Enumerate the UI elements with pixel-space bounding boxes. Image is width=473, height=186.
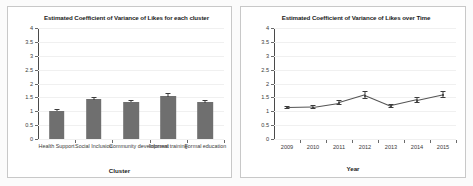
error-bar-cap	[363, 91, 368, 92]
bar-chart-title: Estimated Coefficient of Variance of Lik…	[8, 14, 231, 21]
figure-container: Estimated Coefficient of Variance of Lik…	[0, 0, 473, 186]
x-tick-mark	[300, 140, 301, 143]
gridline	[38, 139, 224, 140]
y-tick-label: 0.5	[25, 122, 33, 128]
error-bar-cap	[415, 102, 420, 103]
x-tick-mark	[378, 140, 379, 143]
line-chart-panel: Estimated Coefficient of Variance of Lik…	[240, 6, 466, 178]
x-tick-mark	[456, 140, 457, 143]
bar	[160, 96, 176, 139]
gridline	[38, 97, 224, 98]
y-tick-mark	[271, 70, 274, 71]
bar-chart-plot-area: 43.532.521.510.50Health SupportSocial In…	[38, 28, 224, 140]
y-tick-label: 3.5	[261, 39, 269, 45]
gridline	[274, 139, 456, 140]
bar	[123, 102, 139, 139]
y-tick-mark	[35, 56, 38, 57]
y-tick-label: 3	[30, 53, 33, 59]
gridline	[274, 28, 456, 29]
x-tick-label: 2013	[378, 144, 404, 151]
y-tick-mark	[35, 28, 38, 29]
error-bar-cap	[129, 100, 134, 101]
y-tick-mark	[271, 125, 274, 126]
y-tick-label: 2.5	[25, 67, 33, 73]
gridline	[38, 42, 224, 43]
error-bar-cap	[337, 100, 342, 101]
y-tick-label: 2.5	[261, 67, 269, 73]
y-tick-mark	[35, 125, 38, 126]
y-tick-mark	[35, 84, 38, 85]
line-segment	[391, 100, 417, 107]
error-bar-cap	[441, 97, 446, 98]
bar	[49, 111, 65, 139]
y-tick-mark	[35, 70, 38, 71]
bar	[198, 102, 214, 139]
y-tick-mark	[271, 42, 274, 43]
y-tick-label: 1.5	[261, 94, 269, 100]
y-tick-label: 1	[266, 108, 269, 114]
error-bar-cap	[203, 100, 208, 101]
y-tick-label: 3.5	[25, 39, 33, 45]
data-point	[442, 94, 444, 96]
y-tick-label: 4	[266, 25, 269, 31]
data-point	[312, 107, 314, 109]
error-bar-cap	[54, 109, 59, 110]
gridline	[38, 56, 224, 57]
line-segment	[313, 102, 339, 107]
bar-chart-panel: Estimated Coefficient of Variance of Lik…	[7, 6, 232, 178]
x-tick-mark	[352, 140, 353, 143]
line-segment	[339, 95, 365, 104]
x-tick-label: 2014	[404, 144, 430, 151]
gridline	[274, 84, 456, 85]
error-bar-cap	[415, 97, 420, 98]
line-segment	[287, 107, 313, 109]
line-chart-title: Estimated Coefficient of Variance of Lik…	[241, 14, 465, 21]
gridline	[274, 70, 456, 71]
y-tick-mark	[35, 97, 38, 98]
gridline	[38, 70, 224, 71]
bar-chart-x-axis-title: Cluster	[8, 167, 231, 174]
y-tick-label: 0	[266, 136, 269, 142]
x-tick-label: 2015	[430, 144, 456, 151]
y-tick-mark	[271, 97, 274, 98]
line-chart-x-axis-title: Year	[241, 165, 465, 172]
gridline	[274, 125, 456, 126]
gridline	[274, 42, 456, 43]
gridline	[38, 84, 224, 85]
y-tick-label: 4	[30, 25, 33, 31]
error-bar-cap	[166, 93, 171, 94]
bar	[86, 99, 102, 139]
y-tick-label: 0.5	[261, 122, 269, 128]
y-tick-label: 0	[30, 136, 33, 142]
x-tick-label: 2009	[274, 144, 300, 151]
y-tick-mark	[35, 111, 38, 112]
x-tick-mark	[430, 140, 431, 143]
data-point	[364, 95, 366, 97]
x-tick-label: 2011	[326, 144, 352, 151]
error-bar-cap	[337, 104, 342, 105]
y-tick-mark	[271, 84, 274, 85]
y-tick-label: 3	[266, 53, 269, 59]
data-point	[390, 105, 392, 107]
y-tick-label: 1.5	[25, 94, 33, 100]
line-segment	[365, 95, 391, 107]
y-tick-mark	[271, 28, 274, 29]
data-point	[416, 100, 418, 102]
x-tick-label: 2012	[352, 144, 378, 151]
y-tick-label: 1	[30, 108, 33, 114]
gridline	[38, 28, 224, 29]
gridline	[274, 111, 456, 112]
y-tick-mark	[271, 139, 274, 140]
error-bar-cap	[363, 98, 368, 99]
x-tick-label: 2010	[300, 144, 326, 151]
x-tick-label: Formal education	[183, 143, 227, 150]
line-chart-plot-area: 43.532.521.510.5020092010201120122013201…	[274, 28, 456, 140]
data-point	[338, 102, 340, 104]
error-bar-cap	[91, 97, 96, 98]
gridline	[274, 56, 456, 57]
y-tick-mark	[35, 139, 38, 140]
x-tick-mark	[326, 140, 327, 143]
y-tick-mark	[35, 42, 38, 43]
data-point	[286, 107, 288, 109]
x-tick-mark	[404, 140, 405, 143]
